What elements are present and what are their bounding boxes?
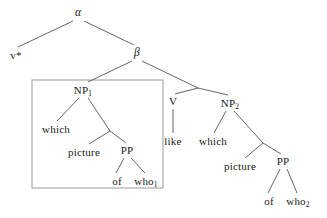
tree-edge-np2-nbar_right <box>234 111 263 143</box>
node-pp-right: PP <box>277 156 290 167</box>
tree-edge-np2-which_right <box>214 111 226 133</box>
tree-edge-beta-np1 <box>88 61 132 82</box>
tree-edge-np1-nbar_left <box>88 98 110 131</box>
tree-edge-np1-which_left <box>57 98 79 121</box>
tree-edge-pp_right-of_right <box>268 169 280 193</box>
node-np1: NP1 <box>74 85 92 96</box>
node-which-left: which <box>42 124 70 135</box>
node-who2: who2 <box>286 196 310 207</box>
node-who1: who1 <box>134 176 158 187</box>
node-picture-left: picture <box>68 147 100 158</box>
tree-edge-pp_left-of_left <box>116 158 124 173</box>
tree-edge-nbar_right-picture_right <box>245 143 263 158</box>
node-v: V <box>169 96 177 107</box>
tree-edge-pp_right-who2 <box>287 169 297 193</box>
tree-edge-alpha-v_star <box>18 21 73 47</box>
node-pp-left: PP <box>121 145 134 156</box>
node-v-star: v* <box>10 50 21 61</box>
tree-edge-nbar_left-pp_left <box>110 131 126 143</box>
tree-edge-vp-v <box>175 88 198 94</box>
tree-edge-beta-vp <box>142 61 198 88</box>
tree-edge-alpha-beta <box>84 21 134 45</box>
tree-edges-layer <box>0 0 327 218</box>
tree-edge-vp-np2 <box>198 88 228 95</box>
node-beta: β <box>134 47 140 59</box>
syntax-tree-diagram: α v* β NP1 which picture PP of who1 V li… <box>0 0 327 218</box>
node-np2: NP2 <box>221 98 239 109</box>
node-of-right: of <box>264 196 274 207</box>
node-which-right: which <box>199 136 227 147</box>
node-of-left: of <box>112 176 122 187</box>
node-like: like <box>164 136 181 147</box>
tree-edge-pp_left-who1 <box>131 158 145 173</box>
node-picture-right: picture <box>224 161 256 172</box>
tree-edge-nbar_left-picture_left <box>89 131 110 144</box>
tree-edge-nbar_right-pp_right <box>263 143 281 154</box>
node-alpha: α <box>75 7 81 19</box>
